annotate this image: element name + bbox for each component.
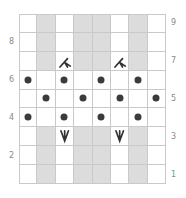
purl-dot-icon [24,114,31,121]
purl-dot-icon [134,76,141,83]
purl-dot-icon [61,114,68,121]
stitch-cell [129,108,147,127]
stitch-cell [111,127,129,146]
purl-dot-icon [98,114,105,121]
no-stitch-cell [93,14,111,33]
no-stitch-cell [129,146,147,165]
decrease-icon [56,52,73,70]
purl-dot-icon [79,95,86,102]
purl-dot-icon [24,76,31,83]
no-stitch-cell [129,14,147,33]
no-stitch-cell [129,165,147,184]
stitch-cell [148,14,166,33]
stitch-cell [19,90,37,109]
stitch-cell [129,90,147,109]
stitch-cell [56,127,74,146]
stitch-cell [19,71,37,90]
stitch-cell [148,71,166,90]
row-label-right: 7 [171,57,176,65]
stitch-cell [111,33,129,52]
no-stitch-cell [93,33,111,52]
increase-icon [56,127,73,145]
stitch-cell [56,90,74,109]
stitch-cell [74,108,92,127]
stitch-cell [19,33,37,52]
stitch-cell [37,90,55,109]
stitch-cell [56,108,74,127]
stitch-cell [148,127,166,146]
stitch-cell [148,165,166,184]
knitting-chart-grid [19,14,166,184]
stitch-cell [111,90,129,109]
no-stitch-cell [74,14,92,33]
stitch-cell [111,165,129,184]
no-stitch-cell [74,33,92,52]
row-label-right: 9 [171,19,176,27]
stitch-cell [37,108,55,127]
no-stitch-cell [93,52,111,71]
no-stitch-cell [93,127,111,146]
row-label-left: 6 [9,76,14,84]
stitch-cell [19,146,37,165]
stitch-cell [56,14,74,33]
stitch-cell [56,52,74,71]
no-stitch-cell [129,127,147,146]
purl-dot-icon [134,114,141,121]
purl-dot-icon [153,95,160,102]
stitch-cell [93,90,111,109]
stitch-cell [148,90,166,109]
row-label-right: 5 [171,95,176,103]
row-label-left: 4 [9,114,14,122]
purl-dot-icon [61,76,68,83]
stitch-cell [148,108,166,127]
stitch-cell [56,146,74,165]
no-stitch-cell [37,127,55,146]
stitch-cell [93,108,111,127]
no-stitch-cell [93,146,111,165]
row-label-left: 8 [9,38,14,46]
stitch-cell [148,33,166,52]
decrease-icon [111,52,128,70]
stitch-cell [111,108,129,127]
stitch-cell [111,52,129,71]
purl-dot-icon [116,95,123,102]
stitch-cell [56,165,74,184]
row-label-right: 1 [171,171,176,179]
stitch-cell [93,71,111,90]
stitch-cell [19,165,37,184]
stitch-cell [56,33,74,52]
stitch-cell [19,108,37,127]
no-stitch-cell [74,165,92,184]
stitch-cell [111,14,129,33]
stitch-cell [74,71,92,90]
purl-dot-icon [98,76,105,83]
no-stitch-cell [93,165,111,184]
no-stitch-cell [74,52,92,71]
stitch-cell [148,52,166,71]
stitch-cell [19,127,37,146]
no-stitch-cell [74,127,92,146]
no-stitch-cell [37,33,55,52]
stitch-cell [19,14,37,33]
no-stitch-cell [129,52,147,71]
row-label-left: 2 [9,152,14,160]
purl-dot-icon [43,95,50,102]
stitch-cell [148,146,166,165]
no-stitch-cell [37,146,55,165]
no-stitch-cell [74,146,92,165]
stitch-cell [111,146,129,165]
stitch-cell [19,52,37,71]
no-stitch-cell [129,33,147,52]
stitch-cell [74,90,92,109]
no-stitch-cell [37,14,55,33]
increase-icon [111,127,128,145]
stitch-cell [37,71,55,90]
stitch-cell [129,71,147,90]
stitch-cell [56,71,74,90]
no-stitch-cell [37,52,55,71]
stitch-cell [111,71,129,90]
no-stitch-cell [37,165,55,184]
row-label-right: 3 [171,133,176,141]
